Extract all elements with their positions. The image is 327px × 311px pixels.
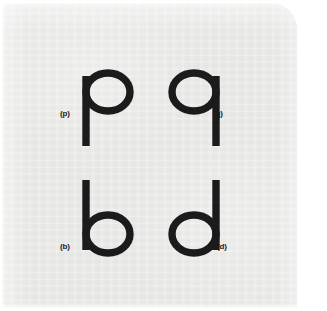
- glyph-cell-q: [168, 56, 224, 148]
- glyph-cell-p: [78, 56, 134, 148]
- figure-root: (p) (q) (b) (d): [0, 0, 327, 311]
- glyph-label-d: (d): [217, 243, 227, 251]
- letter-p-icon: [78, 56, 134, 148]
- paper-texture: [2, 3, 297, 308]
- paper-vignette: [2, 3, 297, 308]
- glyph-label-b: (b): [60, 243, 70, 251]
- page-edge-bottom: [0, 303, 327, 311]
- letter-d-icon: [168, 178, 224, 270]
- glyph-label-p: (p): [60, 110, 70, 118]
- page-edge-left: [0, 0, 4, 311]
- paper-page: [2, 3, 297, 308]
- letter-b-icon: [78, 178, 134, 270]
- letter-q-icon: [168, 56, 224, 148]
- glyph-cell-b: [78, 178, 134, 270]
- glyph-label-q: (q): [213, 110, 223, 118]
- glyph-cell-d: [168, 178, 224, 270]
- page-edge-top: [0, 0, 327, 5]
- page-edge-right: [296, 0, 327, 311]
